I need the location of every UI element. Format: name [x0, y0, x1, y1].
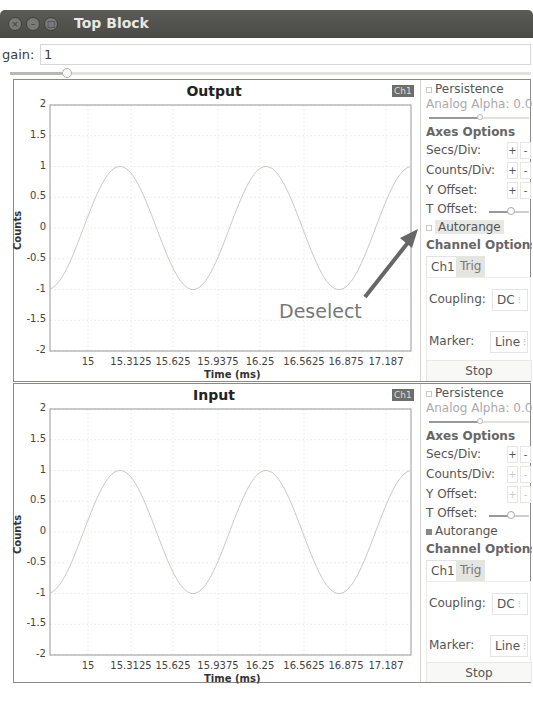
annotation-arrow-icon [0, 0, 533, 701]
